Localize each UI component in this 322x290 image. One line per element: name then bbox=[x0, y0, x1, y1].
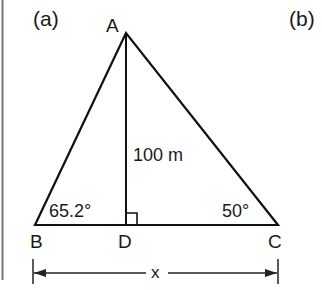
point-label-a: A bbox=[106, 16, 119, 35]
panel-label-a: (a) bbox=[33, 8, 59, 29]
angle-b-label: 65.2° bbox=[49, 202, 91, 220]
panel-label-b: (b) bbox=[289, 8, 315, 29]
height-label: 100 m bbox=[133, 146, 183, 164]
point-label-d: D bbox=[118, 232, 132, 251]
triangle-abc bbox=[35, 33, 278, 225]
point-label-c: C bbox=[268, 232, 282, 251]
base-length-label: x bbox=[148, 264, 163, 281]
arrowhead-left-icon bbox=[34, 269, 46, 277]
point-label-b: B bbox=[30, 232, 43, 251]
right-angle-marker bbox=[126, 213, 137, 225]
angle-c-label: 50° bbox=[222, 202, 249, 220]
arrowhead-right-icon bbox=[265, 269, 277, 277]
